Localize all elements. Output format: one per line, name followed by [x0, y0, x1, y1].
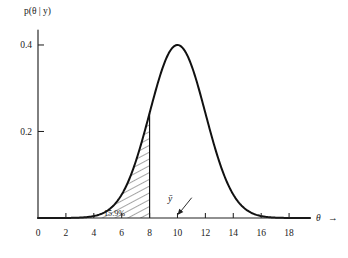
- y-axis-label: p(θ | y): [24, 6, 51, 17]
- posterior-density-figure: 0.20.4 024681012141618 p(θ | y) θ → 15.9…: [0, 0, 348, 258]
- x-axis-tick-label: 4: [91, 228, 96, 238]
- x-axis-label: θ: [316, 213, 321, 223]
- shaded-area-percent-label: 15.9%: [104, 209, 125, 218]
- x-axis-tick-label: 18: [284, 228, 294, 238]
- x-axis-tick-label: 16: [256, 228, 266, 238]
- x-axis-tick-label: 12: [201, 228, 211, 238]
- figure-canvas: 0.20.4 024681012141618 p(θ | y) θ → 15.9…: [0, 0, 348, 258]
- mean-marker-label: ȳ: [167, 194, 173, 204]
- mean-marker: ȳ: [167, 194, 191, 215]
- y-axis-tick-labels: 0.20.4: [20, 40, 32, 137]
- y-axis: 0.20.4: [20, 30, 44, 218]
- x-axis-tick-label: 10: [173, 228, 183, 238]
- x-axis-tick-label: 2: [64, 228, 69, 238]
- density-curve: [38, 45, 310, 218]
- y-axis-tick-label: 0.2: [20, 127, 32, 137]
- y-axis-tick-label: 0.4: [20, 40, 32, 50]
- x-axis-arrow-icon: →: [328, 213, 338, 223]
- x-axis-tick-label: 6: [119, 228, 124, 238]
- x-axis-tick-label: 14: [229, 228, 239, 238]
- y-axis-ticks: [38, 45, 44, 132]
- x-axis-tick-labels: 024681012141618: [36, 228, 294, 238]
- x-axis-tick-label: 8: [147, 228, 152, 238]
- x-axis-tick-label: 0: [36, 228, 41, 238]
